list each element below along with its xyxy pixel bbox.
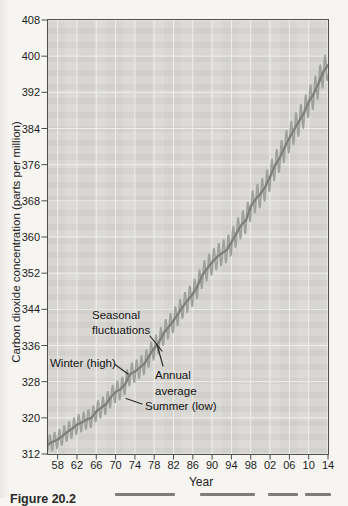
- x-tick-label: 14: [322, 460, 334, 471]
- cropped-caption-bar: [268, 493, 298, 496]
- x-tick-label: 90: [206, 460, 218, 471]
- x-tick-label: 10: [303, 460, 315, 471]
- x-axis-title: Year: [189, 475, 213, 489]
- y-tick-label: 376: [8, 159, 40, 170]
- cropped-caption-text: Figure 20.2: [10, 492, 76, 506]
- x-tick-label: 06: [283, 460, 295, 471]
- y-tick-label: 344: [8, 304, 40, 315]
- cropped-caption-bar: [305, 493, 331, 496]
- y-tick-label: 320: [8, 412, 40, 423]
- annotation-seasonal-line1: Seasonal: [92, 308, 150, 323]
- annotation-annual-line1: Annual: [155, 367, 197, 383]
- y-tick-label: 392: [8, 87, 40, 98]
- x-tick-label: 58: [52, 460, 64, 471]
- annotation-winter-high: Winter (high): [50, 356, 116, 371]
- cropped-caption-bar: [115, 493, 175, 496]
- y-tick-label: 384: [8, 123, 40, 134]
- x-tick-label: 74: [129, 460, 141, 471]
- x-tick-label: 86: [187, 460, 199, 471]
- annotation-annual-line2: average: [155, 383, 197, 399]
- y-tick-label: 352: [8, 268, 40, 279]
- y-tick-label: 328: [8, 376, 40, 387]
- x-tick-label: 62: [71, 460, 83, 471]
- y-tick-label: 400: [8, 51, 40, 62]
- x-tick-label: 98: [245, 460, 257, 471]
- annotation-summer-low: Summer (low): [145, 399, 217, 414]
- cropped-caption-bar: [200, 493, 255, 496]
- annotation-seasonal-line2: fluctuations: [92, 323, 150, 338]
- y-tick-label: 360: [8, 232, 40, 243]
- y-tick-label: 408: [8, 15, 40, 26]
- y-tick-label: 312: [8, 449, 40, 460]
- x-tick-label: 66: [90, 460, 102, 471]
- y-tick-label: 336: [8, 340, 40, 351]
- x-tick-label: 82: [167, 460, 179, 471]
- x-tick-label: 78: [148, 460, 160, 471]
- x-tick-label: 02: [264, 460, 276, 471]
- y-tick-label: 368: [8, 195, 40, 206]
- x-tick-label: 94: [225, 460, 237, 471]
- x-tick-label: 70: [109, 460, 121, 471]
- annotation-annual-average: Annual average: [155, 367, 197, 399]
- annotation-seasonal-fluctuations: Seasonal fluctuations: [92, 308, 150, 338]
